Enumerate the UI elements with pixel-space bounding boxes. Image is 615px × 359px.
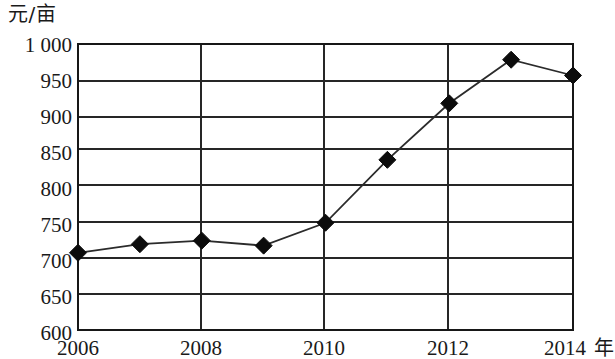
horizontal-gridlines — [78, 81, 573, 294]
x-tick-label-2014: 2014 — [544, 338, 586, 359]
data-point-2006 — [70, 244, 87, 261]
x-tick-label-2012: 2012 — [427, 338, 469, 359]
line-chart: 元/亩 1 000 950 900 850 800 750 700 650 60… — [0, 0, 615, 359]
series-markers — [70, 51, 582, 261]
x-tick-label-2008: 2008 — [180, 338, 222, 359]
plot-area — [0, 0, 615, 359]
data-point-2009 — [255, 237, 272, 254]
x-axis-unit-label: 年 — [594, 338, 614, 359]
data-point-2013 — [503, 51, 520, 68]
x-tick-label-2006: 2006 — [57, 338, 99, 359]
data-point-2008 — [193, 232, 210, 249]
data-point-2007 — [131, 236, 148, 253]
plot-frame — [78, 44, 573, 330]
x-tick-label-2010: 2010 — [303, 338, 345, 359]
vertical-gridlines — [201, 44, 448, 330]
